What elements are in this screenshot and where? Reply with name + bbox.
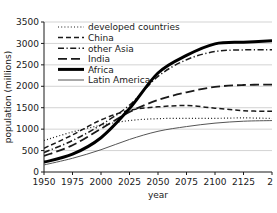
- y-tick-label-1500: 1500: [16, 103, 39, 113]
- x-tick-label-1975: 1975: [61, 177, 84, 187]
- legend-label: India: [88, 54, 110, 64]
- y-tick-label-2000: 2000: [16, 81, 39, 91]
- legend-label: China: [88, 33, 114, 43]
- x-tick-label-1950: 1950: [33, 177, 56, 187]
- x-tick-label-2125: 2125: [232, 177, 255, 187]
- legend-label: Africa: [88, 65, 114, 75]
- legend-item-developed-countries: developed countries: [58, 22, 180, 32]
- y-tick-label-3500: 3500: [16, 17, 39, 27]
- legend-item-latin-america: Latin America: [58, 75, 150, 85]
- x-tick-label-2050: 2050: [147, 177, 170, 187]
- x-tick-label-2100: 2100: [204, 177, 227, 187]
- series-line-china: [44, 106, 272, 149]
- legend-label: Latin America: [88, 75, 150, 85]
- population-projection-chart: 0500100015002000250030003500195019752000…: [0, 0, 277, 213]
- x-tick-label-2025: 2025: [118, 177, 141, 187]
- y-axis-title: population (millions): [3, 51, 13, 143]
- x-tick-label-2: 2: [267, 177, 273, 187]
- y-tick-label-0: 0: [33, 167, 39, 177]
- legend-item-china: China: [58, 33, 114, 43]
- y-tick-label-2500: 2500: [16, 60, 39, 70]
- series-line-india: [44, 85, 272, 156]
- legend-item-africa: Africa: [58, 65, 114, 75]
- x-tick-label-2000: 2000: [90, 177, 113, 187]
- y-tick-label-1000: 1000: [16, 124, 39, 134]
- x-tick-label-2075: 2075: [175, 177, 198, 187]
- y-tick-label-500: 500: [22, 146, 39, 156]
- legend-item-other-asia: other Asia: [58, 44, 134, 54]
- y-tick-label-3000: 3000: [16, 39, 39, 49]
- series-line-latin-america: [44, 121, 272, 165]
- x-axis-title: year: [148, 190, 168, 200]
- chart-canvas: 0500100015002000250030003500195019752000…: [0, 0, 277, 213]
- legend-label: developed countries: [88, 22, 180, 32]
- legend-label: other Asia: [88, 44, 134, 54]
- legend-item-india: India: [58, 54, 110, 64]
